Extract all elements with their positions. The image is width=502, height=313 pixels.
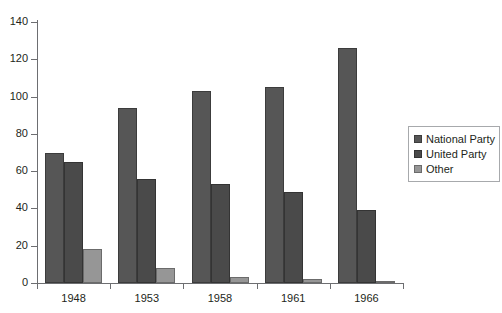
- legend-label: National Party: [426, 133, 495, 145]
- legend-label: Other: [426, 163, 454, 175]
- bar: [156, 268, 175, 283]
- x-tick-mark: [183, 283, 184, 289]
- bar: [284, 192, 303, 283]
- bar: [265, 87, 284, 283]
- x-tick-mark: [110, 283, 111, 289]
- y-tick-label: 120: [0, 53, 28, 64]
- legend-swatch-icon: [414, 165, 422, 173]
- bar: [45, 153, 64, 284]
- legend-label: United Party: [426, 148, 487, 160]
- y-tick-label: 20: [0, 240, 28, 251]
- x-category-label: 1958: [183, 292, 256, 304]
- bar: [192, 91, 211, 283]
- legend-swatch-icon: [414, 135, 422, 143]
- x-category-label: 1961: [257, 292, 330, 304]
- legend-item: National Party: [414, 132, 495, 146]
- legend-item: United Party: [414, 147, 495, 161]
- x-tick-mark: [330, 283, 331, 289]
- x-category-label: 1966: [330, 292, 403, 304]
- x-tick-mark: [257, 283, 258, 289]
- bar: [211, 184, 230, 283]
- x-tick-mark: [403, 283, 404, 289]
- y-tick-label: 140: [0, 16, 28, 27]
- bar: [230, 277, 249, 283]
- chart-legend: National PartyUnited PartyOther: [408, 126, 500, 182]
- x-tick-mark: [37, 283, 38, 289]
- y-tick-label: 0: [0, 277, 28, 288]
- x-category-label: 1948: [37, 292, 110, 304]
- y-tick-label: 40: [0, 202, 28, 213]
- bar: [83, 249, 102, 283]
- bar: [357, 210, 376, 283]
- bar: [64, 162, 83, 283]
- y-tick-label: 80: [0, 128, 28, 139]
- legend-item: Other: [414, 162, 495, 176]
- x-axis-line: [37, 283, 403, 284]
- bar: [376, 281, 395, 283]
- bar-chart: 020406080100120140 19481953195819611966 …: [0, 0, 502, 313]
- y-tick-label: 100: [0, 91, 28, 102]
- bars-layer: [37, 22, 403, 283]
- legend-swatch-icon: [414, 150, 422, 158]
- x-category-label: 1953: [110, 292, 183, 304]
- bar: [137, 179, 156, 283]
- bar: [303, 279, 322, 283]
- bar: [338, 48, 357, 283]
- y-tick-label: 60: [0, 165, 28, 176]
- bar: [118, 108, 137, 283]
